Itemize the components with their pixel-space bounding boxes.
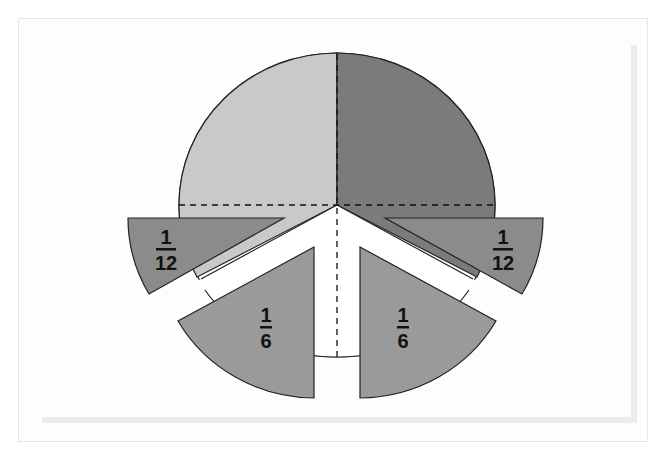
svg-text:1: 1 (497, 226, 508, 248)
right-sixth-label: 1 6 (397, 304, 409, 352)
svg-text:12: 12 (492, 252, 514, 274)
svg-text:1: 1 (397, 304, 408, 326)
svg-text:6: 6 (397, 330, 408, 352)
svg-text:1: 1 (160, 226, 171, 248)
svg-text:1: 1 (260, 304, 271, 326)
left-sixth-label: 1 6 (260, 304, 272, 352)
svg-text:12: 12 (155, 252, 177, 274)
fraction-circle-diagram: 1 12 1 12 1 6 1 6 (0, 0, 668, 458)
svg-text:6: 6 (260, 330, 271, 352)
